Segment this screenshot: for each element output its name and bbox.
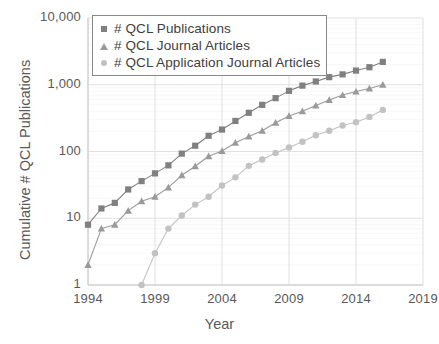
y-axis-tick-label: 1,000 <box>47 76 81 91</box>
x-axis-tick-label: 1994 <box>58 291 118 306</box>
square-marker-icon <box>98 23 113 35</box>
qcl-publications-chart: Cumulative # QCL Publications Year # QCL… <box>0 0 439 344</box>
x-axis-tick-label: 1999 <box>125 291 185 306</box>
triangle-marker-icon <box>98 40 113 52</box>
y-axis-tick-label: 10,000 <box>40 9 81 24</box>
x-axis-tick-label: 2019 <box>393 291 439 306</box>
y-axis-tick-label: 100 <box>59 143 81 158</box>
legend-label: # QCL Publications <box>114 21 231 36</box>
legend-label: # QCL Journal Articles <box>114 38 250 53</box>
x-axis-tick-label: 2004 <box>192 291 252 306</box>
chart-legend: # QCL Publications # QCL Journal Article… <box>92 15 327 76</box>
y-axis-tick-label: 1 <box>74 276 81 291</box>
x-axis-tick-label: 2014 <box>326 291 386 306</box>
x-axis-title: Year <box>0 316 439 332</box>
legend-item-qcl-application-journal-articles: # QCL Application Journal Articles <box>98 54 320 71</box>
legend-item-qcl-journal-articles: # QCL Journal Articles <box>98 37 320 54</box>
x-axis-tick-label: 2009 <box>259 291 319 306</box>
legend-label: # QCL Application Journal Articles <box>114 55 320 70</box>
y-axis-tick-label: 10 <box>66 209 81 224</box>
y-axis-title: Cumulative # QCL Publications <box>17 60 33 260</box>
circle-marker-icon <box>98 57 113 69</box>
legend-item-qcl-publications: # QCL Publications <box>98 20 320 37</box>
